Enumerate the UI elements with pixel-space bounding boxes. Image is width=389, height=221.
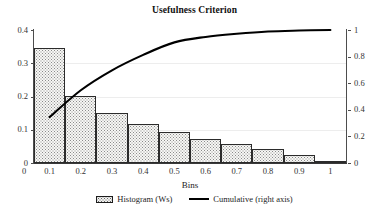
histogram-bar — [315, 161, 346, 163]
histogram-bar — [252, 149, 283, 163]
histogram-bar — [190, 139, 221, 163]
chart-container: Usefulness Criterion 00.10.20.30.4 00.20… — [0, 0, 389, 221]
legend-label-histogram: Histogram (Ws) — [117, 194, 172, 204]
y-axis-left-tick — [31, 97, 34, 98]
y-axis-right-tick — [348, 83, 351, 84]
y-axis-left-tick — [31, 163, 34, 164]
histogram-bar — [34, 48, 65, 163]
legend-item-cumulative: Cumulative (right axis) — [189, 194, 292, 204]
x-axis-tick-label: 1 — [315, 166, 345, 176]
y-axis-left-tick — [31, 30, 34, 31]
histogram-bar — [96, 113, 127, 163]
y-axis-right-tick-label: 0.2 — [354, 131, 365, 141]
y-axis-right-tick-label: 0 — [354, 158, 358, 168]
y-axis-left-tick-label: 0.4 — [2, 25, 28, 35]
y-axis-right-tick-label: 0.4 — [354, 104, 365, 114]
x-axis-tick-label: 0.3 — [97, 166, 127, 176]
histogram-bar — [221, 144, 252, 163]
x-axis-title: Bins — [34, 180, 346, 190]
y-axis-left-tick — [31, 130, 34, 131]
y-axis-right-tick — [348, 30, 351, 31]
x-axis-tick-label: 0.2 — [66, 166, 96, 176]
y-axis-right-tick-label: 1 — [354, 25, 358, 35]
legend-item-histogram: Histogram (Ws) — [96, 194, 172, 204]
chart-legend: Histogram (Ws) Cumulative (right axis) — [0, 194, 389, 204]
y-axis-left-tick-label: 0.2 — [2, 91, 28, 101]
x-axis-tick-label: 0.4 — [128, 166, 158, 176]
y-axis-right-tick — [348, 110, 351, 111]
y-axis-right-tick-label: 0.8 — [354, 51, 365, 61]
x-axis-origin-label: 0 — [16, 166, 32, 176]
x-axis-tick-label: 0.7 — [222, 166, 252, 176]
histogram-swatch-icon — [96, 196, 113, 203]
x-axis-line — [33, 163, 347, 164]
chart-title: Usefulness Criterion — [0, 5, 389, 15]
line-swatch-icon — [189, 198, 209, 201]
x-axis-tick-label: 0.9 — [284, 166, 314, 176]
y-axis-right-tick — [348, 57, 351, 58]
x-axis-tick-label: 0.8 — [253, 166, 283, 176]
y-axis-right-line — [346, 29, 347, 164]
y-axis-left-tick-label: 0.3 — [2, 58, 28, 68]
y-axis-left-tick-label: 0.1 — [2, 124, 28, 134]
x-axis-tick-label: 0.5 — [159, 166, 189, 176]
y-axis-right-tick — [348, 136, 351, 137]
x-axis-tick-label: 0.1 — [35, 166, 65, 176]
histogram-bar — [159, 132, 190, 163]
histogram-bar — [65, 96, 96, 163]
histogram-bars — [34, 30, 346, 163]
y-axis-right-tick — [348, 163, 351, 164]
histogram-bar — [284, 155, 315, 163]
legend-label-cumulative: Cumulative (right axis) — [213, 194, 292, 204]
y-axis-left-tick — [31, 63, 34, 64]
histogram-bar — [128, 124, 159, 163]
x-axis-tick-label: 0.6 — [191, 166, 221, 176]
y-axis-right-tick-label: 0.6 — [354, 78, 365, 88]
plot-area — [34, 30, 346, 163]
